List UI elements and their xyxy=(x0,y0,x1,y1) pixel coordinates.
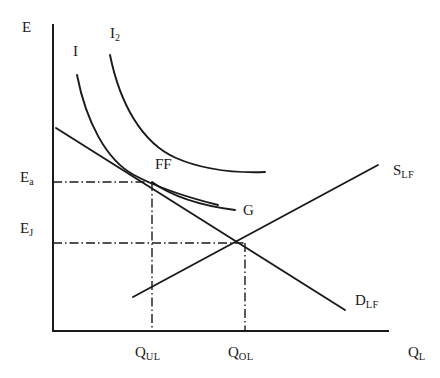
x-value-label-qol-base: Q xyxy=(228,344,239,360)
diagram-canvas xyxy=(0,0,440,378)
supply-curve-slf xyxy=(133,165,378,297)
lines-group xyxy=(56,128,378,310)
curve-label-i1: I xyxy=(73,44,78,59)
x-value-label-qul: QUL xyxy=(135,345,160,360)
x-value-label-qul-base: Q xyxy=(135,344,146,360)
x-value-label-qol: QOL xyxy=(228,345,253,360)
y-axis-label: E xyxy=(22,20,31,35)
y-value-label-ea-subscript: a xyxy=(29,176,34,187)
curve-label-dlf-subscript: LF xyxy=(366,299,379,310)
axes-group xyxy=(53,25,388,331)
y-value-label-ej-subscript: J xyxy=(29,227,33,238)
curve-label-dlf-base: D xyxy=(355,292,366,308)
y-value-label-ea-base: E xyxy=(20,169,29,185)
y-value-label-ea: Ea xyxy=(20,170,34,185)
demand-curve-dlf xyxy=(56,128,345,310)
curve-label-i2: I2 xyxy=(110,26,120,41)
y-value-label-ej-base: E xyxy=(20,220,29,236)
curve-label-g: G xyxy=(243,203,254,218)
y-value-label-ej: EJ xyxy=(20,221,33,236)
curve-label-i2-subscript: 2 xyxy=(115,32,120,43)
x-axis-label: QL xyxy=(408,345,425,360)
curve-label-dlf: DLF xyxy=(355,293,379,308)
economics-diagram: E I I2 FF G SLF DLF Ea EJ QUL QOL QL xyxy=(0,0,440,378)
curve-label-ff: FF xyxy=(155,157,172,172)
x-axis-label-subscript: L xyxy=(419,351,426,362)
curve-label-slf-subscript: LF xyxy=(401,169,414,180)
x-value-label-qol-subscript: OL xyxy=(239,351,253,362)
curve-label-slf: SLF xyxy=(393,163,414,178)
indifference-curve-i2 xyxy=(110,55,265,172)
x-axis-label-base: Q xyxy=(408,344,419,360)
x-value-label-qul-subscript: UL xyxy=(146,351,160,362)
